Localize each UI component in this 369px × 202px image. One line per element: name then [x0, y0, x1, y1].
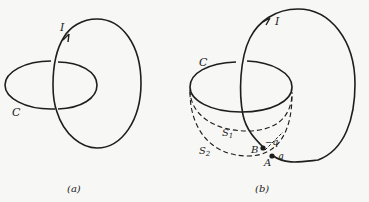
- surface-s2-label: S2: [199, 145, 211, 158]
- surface-s1-label: S1: [222, 127, 233, 140]
- charge-pos-label: q: [278, 151, 284, 161]
- loop-label-a: C: [12, 106, 21, 119]
- charge-neg-label: −q: [265, 137, 279, 147]
- current-label-b: I: [274, 15, 280, 28]
- point-a-label: A: [263, 157, 271, 168]
- ampere-law-diagram: I C (a) I C S1 S2 B A −q q (b): [0, 0, 369, 202]
- loop-i-b: [241, 9, 355, 162]
- point-b-label: B: [250, 144, 258, 155]
- loop-c-a: [5, 61, 97, 109]
- panel-a: [5, 19, 141, 148]
- current-label-a: I: [59, 21, 65, 34]
- caption-a: (a): [67, 183, 81, 194]
- caption-b: (b): [255, 183, 269, 194]
- loop-label-b: C: [199, 56, 208, 69]
